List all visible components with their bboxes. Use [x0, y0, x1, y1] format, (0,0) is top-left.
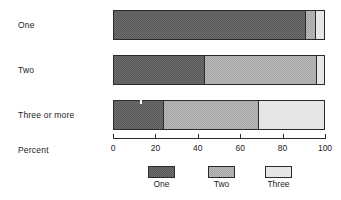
x-axis-tick-label: 20	[151, 144, 160, 153]
bar-segment-three	[316, 56, 324, 84]
bar-segment-three	[315, 11, 323, 39]
stacked-bar-chart: One Two Three or more Percent 0204060801…	[0, 0, 341, 200]
bar-segment-one	[114, 11, 305, 39]
x-axis-tick	[113, 134, 114, 139]
category-label-three-or-more: Three or more	[18, 111, 74, 120]
x-axis-tick	[198, 134, 199, 139]
bar-segment-two	[163, 101, 258, 129]
x-axis-title: Percent	[18, 146, 49, 155]
print-artifact-notch	[140, 100, 142, 104]
legend-label: Three	[265, 180, 292, 189]
x-axis-tick-label: 0	[111, 144, 116, 153]
legend-item: One	[148, 166, 175, 189]
x-axis-tick	[325, 134, 326, 139]
legend-swatch	[265, 166, 292, 178]
legend-label: One	[148, 180, 175, 189]
bar-segment-one	[114, 101, 163, 129]
x-axis-tick	[240, 134, 241, 139]
legend-label: Two	[208, 180, 235, 189]
legend-item: Two	[208, 166, 235, 189]
legend-swatch	[208, 166, 235, 178]
bar-row	[113, 10, 325, 40]
bar-row	[113, 55, 325, 85]
category-label-one: One	[18, 21, 35, 30]
bar-row	[113, 100, 325, 130]
bar-segment-three	[258, 101, 324, 129]
legend-item: Three	[265, 166, 292, 189]
x-axis-tick-label: 80	[278, 144, 287, 153]
x-axis-tick	[155, 134, 156, 139]
category-label-two: Two	[18, 66, 34, 75]
x-axis-tick-label: 100	[318, 144, 332, 153]
bar-segment-two	[204, 56, 315, 84]
x-axis-tick	[283, 134, 284, 139]
legend-swatch	[148, 166, 175, 178]
bar-segment-two	[305, 11, 316, 39]
x-axis-tick-label: 40	[193, 144, 202, 153]
x-axis-line	[113, 138, 325, 139]
x-axis-tick-label: 60	[235, 144, 244, 153]
bar-segment-one	[114, 56, 204, 84]
